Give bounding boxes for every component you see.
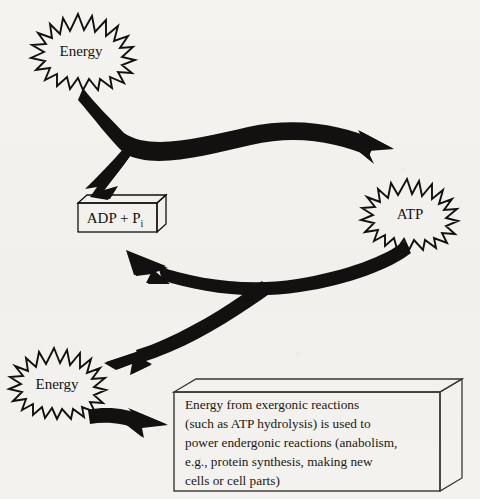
adp-box-label: ADP + Pi [87, 210, 144, 229]
node-adp-box: ADP + Pi [78, 195, 166, 232]
atp-cycle-figure: Energy ATP Energy ADP + Pi Energy from e… [0, 0, 480, 499]
arrow-atp-to-adp [126, 241, 411, 295]
energy-bottom-label: Energy [35, 376, 79, 392]
caption-line-2: (such as ATP hydrolysis) is used to [185, 416, 371, 431]
node-atp: ATP [361, 179, 458, 250]
node-energy-bottom: Energy [9, 348, 106, 419]
caption-line-4: e.g., protein synthesis, making new [185, 454, 373, 469]
diagram-canvas: Energy ATP Energy ADP + Pi Energy from e… [0, 0, 480, 499]
caption-box: Energy from exergonic reactions (such as… [174, 379, 462, 491]
caption-line-3: power endergonic reactions (anabolism, [185, 435, 397, 450]
arrow-atp-to-energy-bottom [104, 281, 272, 375]
node-energy-top: Energy [31, 14, 135, 90]
energy-top-label: Energy [59, 43, 103, 59]
caption-line-5: cells or cell parts) [185, 473, 280, 488]
caption-line-1: Energy from exergonic reactions [185, 397, 359, 412]
atp-label: ATP [397, 206, 424, 222]
arrow-into-adp-box [85, 148, 134, 200]
arrow-energy-bottom-to-caption [88, 408, 168, 438]
